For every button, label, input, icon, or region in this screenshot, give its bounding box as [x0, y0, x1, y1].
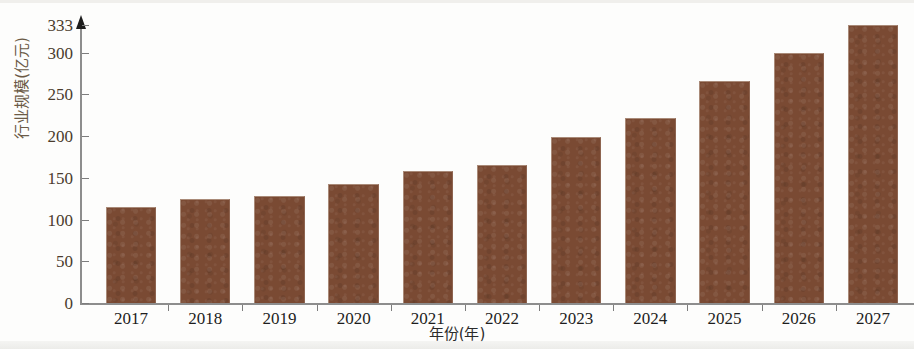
y-axis-tick: 200 [80, 136, 89, 137]
y-axis-tick-mark [82, 53, 89, 54]
x-axis-tick-mark [613, 305, 614, 311]
bar [477, 165, 527, 303]
x-axis-tick-mark [762, 305, 763, 311]
y-axis-tick: 150 [80, 178, 89, 179]
x-axis-line [80, 303, 914, 305]
scan-artifact-band [0, 341, 914, 349]
x-axis-tick-mark [539, 305, 540, 311]
y-axis-tick: 0 [80, 303, 89, 304]
x-axis-tick-mark [242, 305, 243, 311]
x-axis-tick-mark [391, 305, 392, 311]
y-axis-tick-mark [82, 25, 89, 26]
x-axis-tick-mark [168, 305, 169, 311]
y-axis-tick-mark [82, 136, 89, 137]
y-axis-arrow-icon [76, 15, 86, 29]
bar [774, 53, 824, 303]
bar [328, 184, 378, 303]
y-axis-tick-label: 250 [48, 86, 74, 103]
bar [625, 118, 675, 303]
x-axis-tick-mark [687, 305, 688, 311]
y-axis-tick-mark [82, 94, 89, 95]
bar [180, 199, 230, 303]
y-axis-tick: 100 [80, 220, 89, 221]
y-axis-tick-mark [82, 178, 89, 179]
x-axis-tick-mark [836, 305, 837, 311]
bar [848, 25, 898, 303]
bar [699, 81, 749, 303]
x-axis-tick-mark [317, 305, 318, 311]
bar [551, 137, 601, 303]
y-axis-tick: 333 [80, 25, 89, 26]
y-axis-tick-label: 150 [48, 169, 74, 186]
y-axis-tick-label: 200 [48, 128, 74, 145]
y-axis-tick-mark [82, 220, 89, 221]
y-axis-tick: 300 [80, 53, 89, 54]
y-axis-tick: 50 [80, 261, 89, 262]
bar-chart: 行业规模(亿元) 050100150200250300333 201720182… [0, 0, 914, 349]
scan-artifact-top [0, 0, 914, 3]
bar [106, 207, 156, 303]
x-axis-title: 年份(年) [0, 322, 914, 343]
y-axis-tick-label: 0 [65, 295, 74, 312]
y-axis-tick-mark [82, 261, 89, 262]
y-axis-tick: 250 [80, 94, 89, 95]
x-axis-tick-mark [465, 305, 466, 311]
y-axis-tick-label: 333 [48, 17, 74, 34]
y-axis-tick-label: 100 [48, 211, 74, 228]
bar [254, 196, 304, 303]
plot-area: 050100150200250300333 201720182019202020… [80, 17, 914, 303]
y-axis-tick-mark [82, 303, 89, 304]
y-axis-tick-label: 300 [48, 44, 74, 61]
y-axis-title: 行业规模(亿元) [10, 0, 34, 198]
y-axis-tick-label: 50 [56, 253, 73, 270]
bar [403, 171, 453, 303]
